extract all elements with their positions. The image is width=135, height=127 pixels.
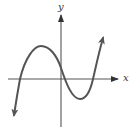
cubic-curve-left-tail xyxy=(14,79,20,115)
function-graph xyxy=(0,0,135,127)
y-axis-label: y xyxy=(58,2,64,12)
x-axis-label: x xyxy=(123,73,129,83)
